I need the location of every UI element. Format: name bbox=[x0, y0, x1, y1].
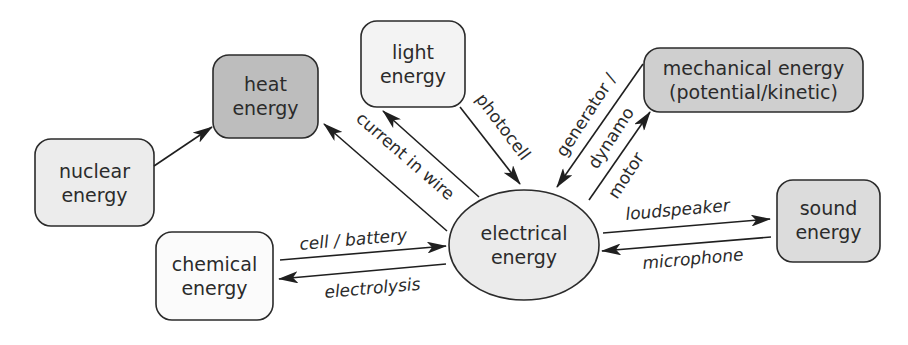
node-nuclear-energy: nuclear energy bbox=[35, 139, 154, 226]
svg-text:energy: energy bbox=[181, 277, 247, 299]
svg-text:energy: energy bbox=[795, 221, 861, 243]
svg-text:energy: energy bbox=[61, 184, 127, 206]
svg-text:electrical: electrical bbox=[480, 222, 567, 244]
node-electrical-energy: electrical energy bbox=[449, 190, 599, 300]
label-microphone: microphone bbox=[642, 244, 745, 273]
arrow-electrical-to-chemical bbox=[279, 264, 446, 279]
node-chemical-energy: chemical energy bbox=[156, 232, 273, 320]
svg-text:energy: energy bbox=[491, 246, 557, 268]
label-cell-battery: cell / battery bbox=[299, 225, 409, 254]
node-heat-energy: heat energy bbox=[213, 55, 318, 138]
energy-diagram: nuclear energy heat energy light energy … bbox=[0, 0, 908, 345]
svg-text:energy: energy bbox=[380, 65, 446, 87]
svg-text:sound: sound bbox=[800, 197, 858, 219]
label-loudspeaker: loudspeaker bbox=[625, 195, 732, 224]
label-photocell: photocell bbox=[472, 89, 535, 164]
node-light-energy: light energy bbox=[361, 21, 465, 107]
label-current-in-wire: current in wire bbox=[352, 108, 458, 204]
svg-text:mechanical energy: mechanical energy bbox=[663, 57, 844, 79]
node-sound-energy: sound energy bbox=[777, 180, 880, 262]
svg-text:nuclear: nuclear bbox=[59, 160, 130, 182]
svg-text:(potential/kinetic): (potential/kinetic) bbox=[669, 81, 838, 103]
svg-text:chemical: chemical bbox=[172, 253, 257, 275]
svg-text:heat: heat bbox=[244, 73, 287, 95]
label-electrolysis: electrolysis bbox=[324, 274, 422, 302]
svg-text:energy: energy bbox=[232, 97, 298, 119]
svg-text:light: light bbox=[392, 41, 434, 63]
arrow-nuclear-to-heat bbox=[154, 127, 212, 166]
node-mechanical-energy: mechanical energy (potential/kinetic) bbox=[644, 48, 863, 112]
